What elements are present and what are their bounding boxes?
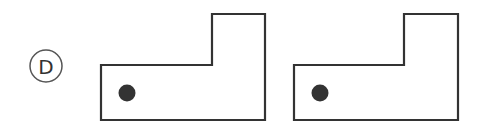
option-label: D bbox=[30, 50, 62, 82]
option-letter: D bbox=[38, 55, 53, 79]
figure-right bbox=[294, 14, 458, 120]
figure-left bbox=[101, 14, 265, 120]
dot-marker bbox=[312, 85, 329, 102]
l-shape-outline bbox=[101, 14, 265, 120]
dot-marker bbox=[119, 85, 136, 102]
l-shape-outline bbox=[294, 14, 458, 120]
diagram-canvas: D bbox=[0, 0, 480, 130]
